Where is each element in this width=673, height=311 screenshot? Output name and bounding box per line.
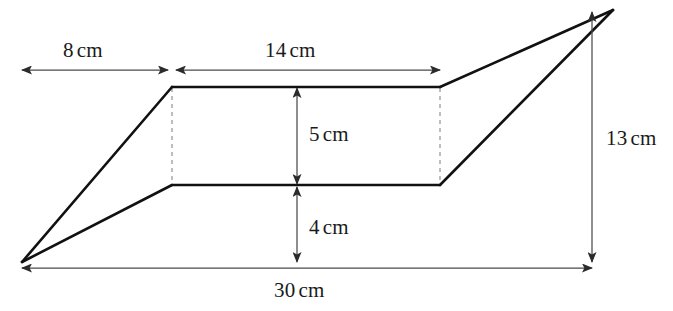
dimension-value-30: 30 [274,278,295,302]
dimension-value-13: 13 [606,126,627,150]
dimension-label-30cm: 30cm [274,280,324,301]
dashed-guides [172,88,440,184]
edge-upper-right-fall [440,10,613,87]
edge-upper-left-fall [22,87,172,262]
edge-lower-left-rise [22,185,172,262]
dimension-value-5: 5 [309,122,320,146]
dimension-value-4: 4 [309,215,320,239]
dimension-unit-4: cm [323,215,349,239]
dimension-label-14cm: 14cm [265,40,315,61]
dimension-unit-30: cm [298,278,324,302]
edge-right-rise [440,10,613,185]
dimension-label-4cm: 4cm [309,217,349,238]
dimension-unit-13: cm [630,126,656,150]
dimension-unit-14: cm [289,38,315,62]
dimension-unit-8: cm [77,38,103,62]
dimension-value-8: 8 [63,38,74,62]
dimension-label-13cm: 13cm [606,128,656,149]
geometry-figure: 8cm 14cm 5cm 4cm 13cm 30cm [0,0,673,311]
dimension-unit-5: cm [323,122,349,146]
dimension-label-8cm: 8cm [63,40,103,61]
dimension-value-14: 14 [265,38,286,62]
dimension-label-5cm: 5cm [309,124,349,145]
